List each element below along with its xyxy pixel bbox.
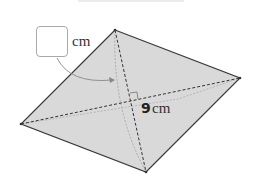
diagonal-length-unit: cm <box>152 101 170 116</box>
answer-input-box[interactable] <box>36 26 68 57</box>
diagonal-length-value: 9 <box>141 101 151 115</box>
answer-unit-label: cm <box>72 34 90 49</box>
